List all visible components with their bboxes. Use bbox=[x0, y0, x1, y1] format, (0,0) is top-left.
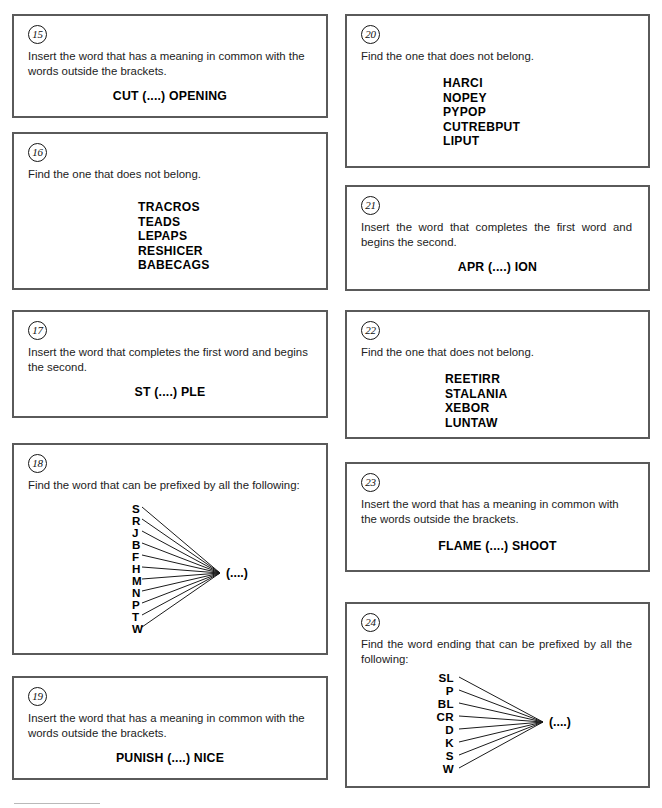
fan-label: S bbox=[132, 503, 140, 515]
puzzle-answer-line: ST (....) PLE bbox=[14, 385, 326, 399]
fan-label: T bbox=[132, 611, 139, 623]
footer-rule bbox=[14, 803, 100, 804]
fan-target-answer: (....) bbox=[226, 567, 248, 579]
word-list-item: RESHICER bbox=[138, 244, 210, 259]
puzzle-number-badge: 22 bbox=[361, 321, 380, 340]
word-list-item: TRACROS bbox=[138, 200, 210, 215]
fan-diagram-lines bbox=[14, 445, 330, 657]
fan-label: D bbox=[409, 724, 454, 736]
word-list-item: LEPAPS bbox=[138, 229, 210, 244]
puzzle-prompt: Insert the word that has a meaning in co… bbox=[28, 49, 310, 79]
fan-label: CR bbox=[409, 711, 454, 723]
word-list-item: CUTREBPUT bbox=[443, 120, 520, 135]
puzzle-card-19: 19 Insert the word that has a meaning in… bbox=[12, 676, 328, 780]
word-list-item: TEADS bbox=[138, 215, 210, 230]
puzzle-card-16: 16 Find the one that does not belong. TR… bbox=[12, 132, 328, 290]
word-list-item: LUNTAW bbox=[445, 416, 508, 431]
fan-label: SL bbox=[409, 672, 454, 684]
fan-label: K bbox=[409, 737, 454, 749]
puzzle-card-23: 23 Insert the word that has a meaning in… bbox=[345, 462, 650, 572]
fan-label: BL bbox=[409, 698, 454, 710]
puzzle-card-24: 24 Find the word ending that can be pref… bbox=[345, 602, 650, 788]
puzzle-number-badge: 20 bbox=[361, 25, 380, 44]
puzzle-answer-line: CUT (....) OPENING bbox=[14, 89, 326, 103]
puzzle-card-17: 17 Insert the word that completes the fi… bbox=[12, 310, 328, 418]
word-list-item: NOPEY bbox=[443, 91, 520, 106]
fan-label: W bbox=[409, 763, 454, 775]
puzzle-word-list: TRACROS TEADS LEPAPS RESHICER BABECAGS bbox=[138, 200, 210, 273]
fan-label: H bbox=[132, 563, 141, 575]
puzzle-page: 15 Insert the word that has a meaning in… bbox=[0, 0, 662, 808]
puzzle-card-21: 21 Insert the word that completes the fi… bbox=[345, 185, 650, 291]
puzzle-number-badge: 19 bbox=[28, 687, 47, 706]
fan-label: B bbox=[132, 539, 141, 551]
fan-label: M bbox=[132, 575, 142, 587]
fan-target-answer: (....) bbox=[549, 716, 571, 728]
fan-label: P bbox=[409, 685, 454, 697]
puzzle-prompt: Find the one that does not belong. bbox=[361, 49, 632, 64]
puzzle-answer-line: PUNISH (....) NICE bbox=[14, 751, 326, 765]
fan-diagram-lines bbox=[347, 604, 652, 790]
fan-label: P bbox=[132, 599, 140, 611]
puzzle-card-20: 20 Find the one that does not belong. HA… bbox=[345, 14, 650, 168]
puzzle-card-18: 18 Find the word that can be prefixed by… bbox=[12, 443, 328, 655]
puzzle-number-badge: 21 bbox=[361, 196, 380, 215]
puzzle-number-badge: 17 bbox=[28, 321, 47, 340]
puzzle-number-badge: 15 bbox=[28, 25, 47, 44]
puzzle-prompt: Insert the word that has a meaning in co… bbox=[28, 711, 310, 741]
word-list-item: LIPUT bbox=[443, 134, 520, 149]
puzzle-answer-line: FLAME (....) SHOOT bbox=[347, 539, 648, 553]
puzzle-number-badge: 16 bbox=[28, 143, 47, 162]
fan-label: N bbox=[132, 587, 141, 599]
fan-label: J bbox=[132, 527, 139, 539]
puzzle-prompt: Insert the word that has a meaning in co… bbox=[361, 497, 632, 527]
fan-label: F bbox=[132, 551, 139, 563]
word-list-item: PYPOP bbox=[443, 105, 520, 120]
puzzle-number-badge: 23 bbox=[361, 473, 380, 492]
puzzle-prompt: Find the one that does not belong. bbox=[361, 345, 632, 360]
puzzle-answer-line: APR (....) ION bbox=[347, 260, 648, 274]
puzzle-prompt: Find the one that does not belong. bbox=[28, 167, 310, 182]
word-list-item: REETIRR bbox=[445, 372, 508, 387]
word-list-item: XEBOR bbox=[445, 401, 508, 416]
fan-label: W bbox=[132, 623, 143, 635]
word-list-item: HARCI bbox=[443, 76, 520, 91]
puzzle-prompt: Insert the word that completes the first… bbox=[28, 345, 310, 375]
fan-label: R bbox=[132, 515, 141, 527]
puzzle-word-list: REETIRR STALANIA XEBOR LUNTAW bbox=[445, 372, 508, 430]
puzzle-card-22: 22 Find the one that does not belong. RE… bbox=[345, 310, 650, 439]
puzzle-card-15: 15 Insert the word that has a meaning in… bbox=[12, 14, 328, 118]
puzzle-prompt: Insert the word that completes the first… bbox=[361, 220, 632, 250]
word-list-item: STALANIA bbox=[445, 387, 508, 402]
word-list-item: BABECAGS bbox=[138, 258, 210, 273]
fan-label: S bbox=[409, 750, 454, 762]
puzzle-word-list: HARCI NOPEY PYPOP CUTREBPUT LIPUT bbox=[443, 76, 520, 149]
